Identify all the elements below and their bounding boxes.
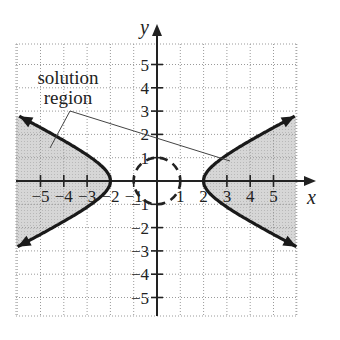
annotation-region: region [44,87,93,108]
y-axis-arrow-icon [152,24,162,36]
y-tick-label: 4 [141,79,150,98]
x-tick-label: 2 [199,187,208,206]
hyperbola-graph: solution region y x −5−4−3−2−11234554321… [0,0,340,340]
y-axis-label: y [138,16,149,39]
y-axis [152,24,162,316]
annotation-solution: solution [37,67,99,88]
x-tick-label: −4 [55,187,74,206]
x-tick-label: −5 [31,187,49,206]
x-tick-label: 1 [176,187,185,206]
y-tick-label: −2 [131,219,149,238]
y-tick-label: −4 [131,265,150,284]
y-tick-label: 3 [141,102,150,121]
y-tick-label: 2 [141,125,150,144]
x-tick-label: −2 [101,187,119,206]
x-tick-label: 3 [223,187,232,206]
x-tick-label: −3 [78,187,96,206]
x-axis-arrow-icon [304,176,316,186]
y-tick-label: 5 [141,56,150,75]
y-tick-label: −3 [131,242,149,261]
y-tick-label: −5 [131,289,149,308]
x-axis-label: x [306,186,316,208]
y-tick-label: 1 [141,149,150,168]
x-tick-label: 5 [269,187,278,206]
y-tick-label: −1 [131,195,149,214]
x-tick-label: 4 [246,187,255,206]
